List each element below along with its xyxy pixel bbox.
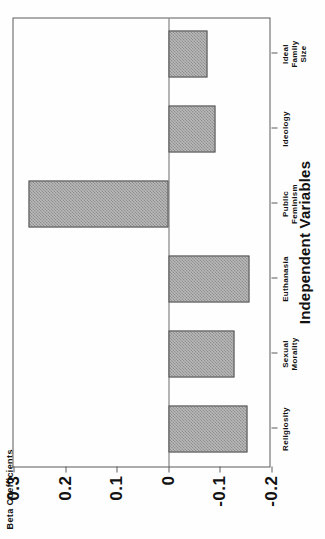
bar [28,180,168,227]
bars-layer [13,18,269,466]
x-tick [271,428,277,429]
y-tick-label: -0.2 [261,475,281,506]
x-tick-label: Ideology [280,111,289,146]
x-tick [271,203,277,204]
chart-canvas: Beta Coefficients 0.30.20.10-0.1-0.2 Rel… [0,0,325,539]
bar [168,330,235,377]
y-tick [13,466,14,472]
x-tick [271,128,277,129]
y-tick-label: 0.3 [3,475,23,500]
x-tick [271,278,277,279]
x-tick-label: Euthanasia [280,256,289,302]
bar [168,405,247,452]
y-tick-label: 0.2 [55,475,75,500]
plot-area: 0.30.20.10-0.1-0.2 ReligiositySexual Mor… [12,17,270,467]
y-tick [168,466,169,472]
y-tick-label: 0.1 [106,475,126,500]
y-tick [219,466,220,472]
y-tick [271,466,272,472]
x-tick [271,53,277,54]
y-tick [65,466,66,472]
bar [168,105,215,152]
x-axis-title: Independent Variables [295,17,312,467]
bar [168,255,249,302]
y-tick [116,466,117,472]
x-tick [271,353,277,354]
chart-figure: Beta Coefficients 0.30.20.10-0.1-0.2 Rel… [0,0,325,539]
x-tick-label: Religiosity [280,407,289,451]
y-tick-label: 0 [158,475,178,485]
y-tick-label: -0.1 [209,475,229,506]
bar [168,30,207,77]
